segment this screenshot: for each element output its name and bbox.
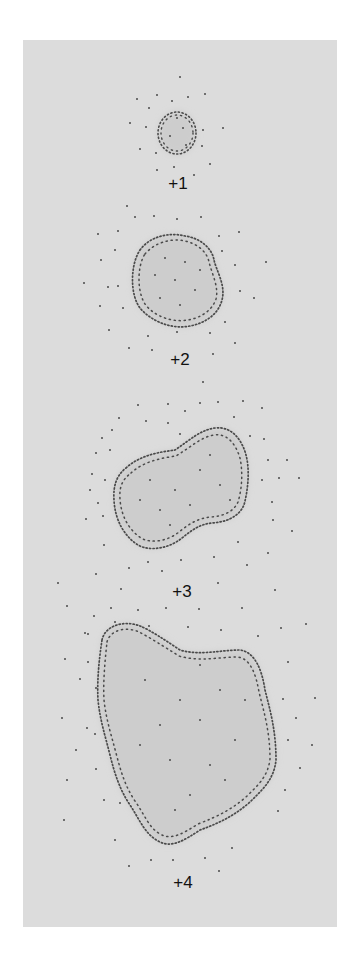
stage-2-blob: [83, 205, 267, 355]
stage-label-4: +4: [153, 873, 213, 893]
stage-3-blob: [57, 381, 300, 591]
stage-4-blob: [61, 605, 316, 872]
stage-diagram: [0, 0, 359, 955]
stage-label-3: +3: [152, 582, 212, 602]
stage-label-1: +1: [148, 174, 208, 194]
stage-label-2: +2: [150, 350, 210, 370]
stage-1-blob: [129, 76, 224, 176]
